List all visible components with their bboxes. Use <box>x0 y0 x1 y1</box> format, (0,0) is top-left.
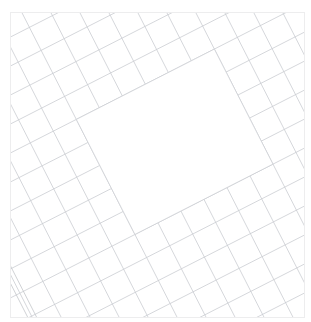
map-layers <box>11 13 304 317</box>
map-frame[interactable] <box>10 12 305 318</box>
clipped-header-text <box>0 0 311 4</box>
map-viewport[interactable] <box>0 0 311 322</box>
map-canvas[interactable] <box>11 13 304 317</box>
